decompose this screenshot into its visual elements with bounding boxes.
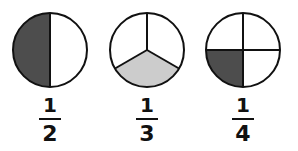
- fraction-label-half: 1 2: [30, 95, 70, 145]
- numerator: 1: [223, 95, 263, 115]
- denominator: 3: [127, 123, 167, 145]
- circle-one-half: [13, 13, 87, 87]
- circle-one-quarter: [206, 13, 280, 87]
- shaded-third: [115, 50, 179, 87]
- fraction-label-third: 1 3: [127, 95, 167, 145]
- shaded-half: [13, 13, 50, 87]
- fraction-label-quarter: 1 4: [223, 95, 263, 145]
- numerator: 1: [30, 95, 70, 115]
- fraction-bar: [136, 118, 158, 120]
- fraction-bar: [39, 118, 61, 120]
- denominator: 4: [223, 123, 263, 145]
- denominator: 2: [30, 123, 70, 145]
- fraction-bar: [232, 118, 254, 120]
- numerator: 1: [127, 95, 167, 115]
- circle-one-third: [110, 13, 184, 87]
